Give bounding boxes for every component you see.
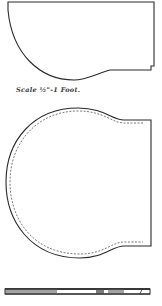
middle-pattern-piece [6,108,151,258]
diagram-figure: Scale ½"-1 Foot. [0,0,162,306]
top-pattern-piece [8,2,154,80]
diagram-svg [0,0,162,306]
scale-caption: Scale ½"-1 Foot. [16,86,80,94]
middle-pattern-seam [10,111,143,254]
bottom-strip [5,289,150,294]
